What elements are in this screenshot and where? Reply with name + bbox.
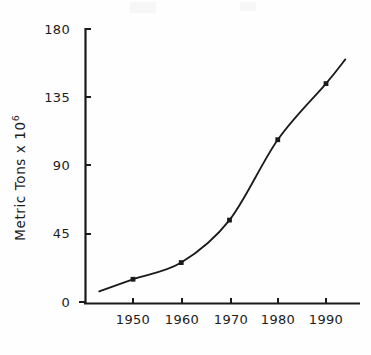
plot-area [0,0,371,355]
data-point-marker [324,81,329,86]
line-chart: Metric Tons x 106 180 135 90 45 0 1950 1… [0,0,371,355]
series-line [99,59,345,291]
axis-lines [84,28,360,304]
data-point-marker [179,260,184,265]
data-series-layer [99,59,345,291]
data-point-marker [275,137,280,142]
data-point-marker [131,277,136,282]
data-point-marker [227,218,232,223]
